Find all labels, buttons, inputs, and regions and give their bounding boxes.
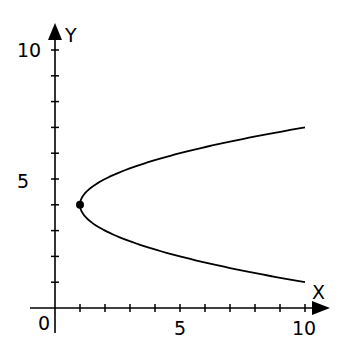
axis-labels: X Y 0 5 10 5 10 [17,24,325,339]
x-axis-arrow-icon [312,301,330,315]
vertex-point [76,201,84,209]
x-tick-label-10: 10 [292,317,316,339]
x-tick-label-5: 5 [174,317,186,339]
x-tick-label-0: 0 [38,312,50,334]
parabola-chart: X Y 0 5 10 5 10 [0,0,344,353]
parabola-curve [80,127,305,282]
x-axis-title: X [312,281,325,303]
y-tick-label-10: 10 [17,39,41,61]
axes [30,23,330,333]
y-axis-title: Y [64,24,77,46]
y-tick-label-5: 5 [17,170,29,192]
y-axis-arrow-icon [48,23,62,40]
